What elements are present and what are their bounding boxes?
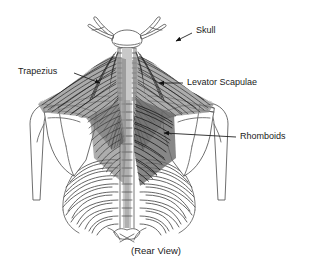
mandible-right: [141, 17, 166, 39]
label-levator-scapulae-text: Levator Scapulae: [187, 77, 257, 87]
label-trapezius-text: Trapezius: [18, 66, 58, 76]
skull-leader-line: [176, 33, 192, 41]
anatomy-figure: Skull Trapezius Levator Scapulae Rhomboi…: [0, 0, 313, 276]
label-rhomboids-text: Rhomboids: [240, 131, 286, 141]
label-skull-text: Skull: [196, 25, 216, 35]
anatomy-diagram-screenshot: Skull Trapezius Levator Scapulae Rhomboi…: [0, 0, 313, 276]
skull-base: [112, 30, 142, 48]
rhomboid-muscle: [88, 98, 176, 188]
label-skull: Skull: [176, 25, 216, 41]
figure-caption: (Rear View): [131, 245, 181, 256]
mandible-left: [88, 17, 113, 39]
